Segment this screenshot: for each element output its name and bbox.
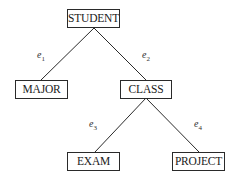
edge-class-project — [146, 98, 199, 152]
edge-label-e3: e3 — [89, 118, 97, 132]
node-major: MAJOR — [15, 80, 68, 99]
edge-label-e1: e1 — [37, 49, 45, 63]
edge-label-e2: e2 — [142, 49, 150, 63]
edge-label-e4-sub: 4 — [198, 124, 202, 132]
node-exam: EXAM — [67, 152, 120, 171]
node-class: CLASS — [120, 80, 172, 99]
edge-student-major — [41, 28, 94, 80]
edge-label-e3-sub: 3 — [93, 124, 97, 132]
edge-label-e1-sub: 1 — [41, 55, 45, 63]
edge-label-e4: e4 — [194, 118, 202, 132]
node-project: PROJECT — [172, 152, 225, 171]
edge-class-exam — [95, 98, 146, 152]
edge-label-e2-sub: 2 — [146, 55, 150, 63]
node-student: STUDENT — [67, 9, 120, 28]
edge-student-class — [94, 28, 146, 80]
